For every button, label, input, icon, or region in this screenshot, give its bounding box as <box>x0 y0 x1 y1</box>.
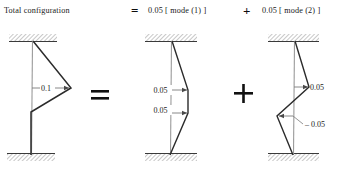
total-configuration-diagram: 0.1 <box>7 34 71 161</box>
big-plus-operator <box>234 84 253 103</box>
annotation-total-0-1: 0.1 <box>41 84 51 93</box>
deformed-shape-mode2 <box>277 41 309 155</box>
support-top-mode1 <box>145 34 197 42</box>
leader-line-mode2-negative <box>293 116 303 124</box>
support-top-mode2 <box>268 34 319 42</box>
structural-diagram-canvas: 0.1 0.05 0.05 <box>0 0 337 179</box>
mode-1-diagram: 0.05 0.05 <box>145 34 197 161</box>
big-equals-operator <box>91 90 109 100</box>
support-top-total <box>9 34 57 42</box>
undeformed-axis-mode1 <box>171 41 172 155</box>
annotation-mode1-upper: 0.05 <box>154 86 168 95</box>
annotation-mode2-positive: 0.05 <box>310 83 324 92</box>
mode-2-diagram: 0.05 – 0.05 <box>268 34 325 161</box>
deformed-shape-total <box>31 41 71 155</box>
annotation-mode1-lower: 0.05 <box>154 106 168 115</box>
figure-root: Total configuration = 0.05 [ mode (1) ] … <box>0 0 337 179</box>
annotation-mode2-negative: – 0.05 <box>304 120 325 129</box>
undeformed-axis-mode2 <box>294 41 295 155</box>
deformed-shape-mode1 <box>170 41 188 155</box>
